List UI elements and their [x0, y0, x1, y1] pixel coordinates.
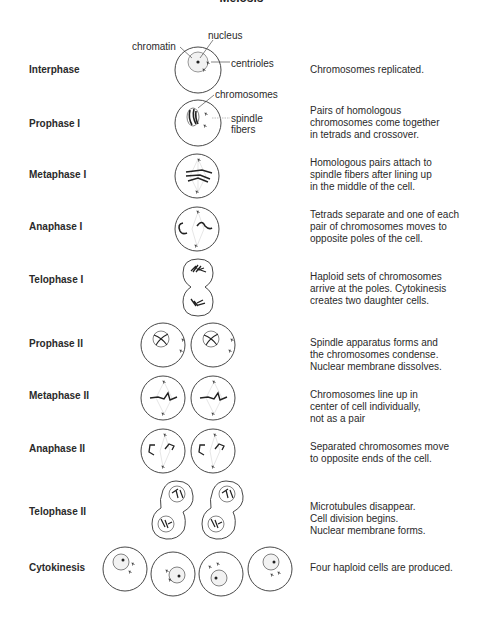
cell-anaphase-2-left [141, 429, 185, 473]
cell-telophase-1 [183, 259, 213, 316]
cell-metaphase-1 [175, 154, 219, 198]
meiosis-diagram [0, 0, 483, 623]
cell-telophase-2-left [152, 481, 193, 539]
cell-cytokinesis-2 [151, 552, 195, 596]
cell-prophase-1 [175, 95, 230, 146]
cell-anaphase-1 [175, 207, 219, 251]
cell-cytokinesis-3 [199, 552, 243, 596]
cell-cytokinesis-1 [103, 547, 147, 591]
cell-telophase-2-right [202, 481, 243, 539]
cell-cytokinesis-4 [248, 547, 292, 591]
cell-anaphase-2-right [191, 429, 235, 473]
cell-metaphase-2-left [141, 376, 185, 420]
cell-metaphase-2-right [191, 376, 235, 420]
cell-interphase [175, 40, 230, 93]
cell-prophase-2-right [191, 323, 235, 367]
cell-prophase-2-left [141, 323, 185, 367]
